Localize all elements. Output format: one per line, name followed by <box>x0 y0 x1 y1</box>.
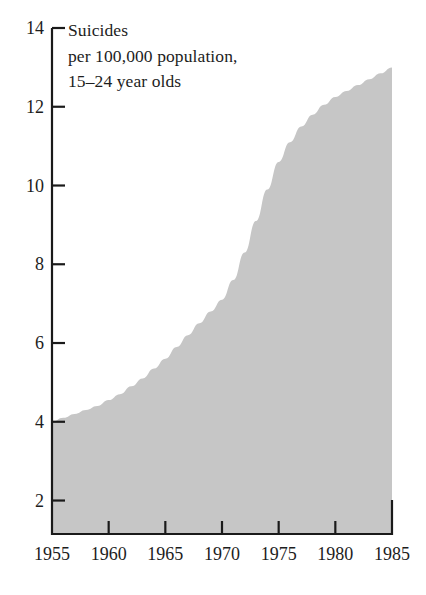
x-axis-tick-label: 1965 <box>134 544 196 565</box>
y-axis-tick-label: 12 <box>4 96 44 117</box>
area-series-path <box>52 67 392 534</box>
x-axis-tick-label: 1980 <box>304 544 366 565</box>
chart-figure: Suicides per 100,000 population, 15–24 y… <box>0 0 426 595</box>
y-axis-tick-label: 10 <box>4 175 44 196</box>
x-axis-tick-label: 1960 <box>78 544 140 565</box>
chart-title: Suicides per 100,000 population, 15–24 y… <box>68 18 368 95</box>
y-axis-tick-label: 4 <box>4 411 44 432</box>
y-axis-tick-label: 14 <box>4 18 44 39</box>
y-axis-tick-label: 2 <box>4 490 44 511</box>
x-axis-tick-label: 1975 <box>248 544 310 565</box>
x-axis-tick-label: 1985 <box>361 544 423 565</box>
x-axis-tick-label: 1955 <box>21 544 83 565</box>
area-series-group <box>52 67 392 534</box>
x-axis-tick-label: 1970 <box>191 544 253 565</box>
y-axis-tick-label: 6 <box>4 333 44 354</box>
y-axis-tick-label: 8 <box>4 254 44 275</box>
